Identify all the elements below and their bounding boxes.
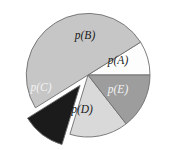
pie-chart-figure: p(A)p(B)p(C)p(D)p(E) xyxy=(0,0,170,150)
pie-slice-label-pa: p(A) xyxy=(107,54,129,67)
pie-slice-label-pb: p(B) xyxy=(74,29,96,42)
pie-slice-label-pc: p(C) xyxy=(29,81,51,94)
pie-slice-label-pd: p(D) xyxy=(70,103,93,116)
pie-chart-svg: p(A)p(B)p(C)p(D)p(E) xyxy=(0,0,170,150)
pie-slice-label-pe: p(E) xyxy=(107,83,129,96)
